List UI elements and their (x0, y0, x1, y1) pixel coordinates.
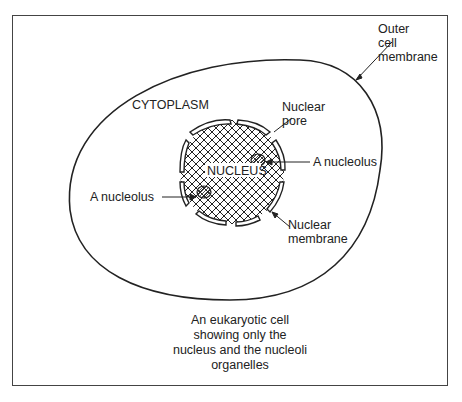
nucleolus-left (197, 186, 211, 198)
nuclear-membrane-label: Nuclear membrane (288, 218, 348, 246)
nucleolus-right-label: A nucleolus (313, 155, 377, 169)
cytoplasm-label: CYTOPLASM (132, 98, 209, 112)
nucleolus-left-label: A nucleolus (90, 190, 154, 204)
nuclear-pore-label: Nuclear pore (282, 100, 325, 128)
diagram-caption: An eukaryotic cell showing only the nucl… (150, 313, 330, 373)
outer-membrane-label: Outer cell membrane (378, 22, 438, 64)
nucleus-label: NUCLEUS (207, 164, 267, 178)
